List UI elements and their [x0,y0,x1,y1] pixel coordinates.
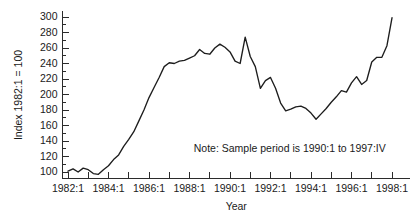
y-axis-tick-label: 300 [40,10,58,22]
y-axis-tick-label: 220 [40,72,58,84]
x-axis-ticks [68,172,392,179]
y-axis-tick-label: 280 [40,26,58,38]
x-axis-tick-label: 1994:1 [295,182,327,194]
x-axis-tick-label: 1996:1 [335,182,367,194]
y-axis-tick-label: 200 [40,88,58,100]
y-axis-tick-label: 100 [40,165,58,177]
y-axis-tick-label: 260 [40,41,58,53]
y-axis-tick-label: 240 [40,57,58,69]
x-axis-tick-label: 1986:1 [133,182,165,194]
y-axis-tick-labels: 100120140160180200220240260280300 [40,10,58,177]
x-axis-tick-label: 1988:1 [173,182,205,194]
x-axis-tick-label: 1982:1 [52,182,84,194]
x-axis-tick-label: 1990:1 [214,182,246,194]
x-axis-tick-labels: 1982:11984:11986:11988:11990:11992:11994… [52,182,408,194]
y-axis-tick-label: 140 [40,134,58,146]
x-axis-tick-label: 1992:1 [254,182,286,194]
x-axis-title: Year [226,200,248,212]
x-axis-tick-label: 1998:1 [376,182,408,194]
y-axis-title: Index 1982:1 = 100 [12,50,24,140]
line-chart: 100120140160180200220240260280300 1982:1… [0,0,419,224]
y-axis-tick-label: 120 [40,150,58,162]
sample-period-note: Note: Sample period is 1990:1 to 1997:IV [194,142,386,154]
y-axis-tick-label: 180 [40,103,58,115]
y-axis-tick-label: 160 [40,119,58,131]
x-axis-tick-label: 1984:1 [92,182,124,194]
chart-figure: 100120140160180200220240260280300 1982:1… [0,0,419,224]
